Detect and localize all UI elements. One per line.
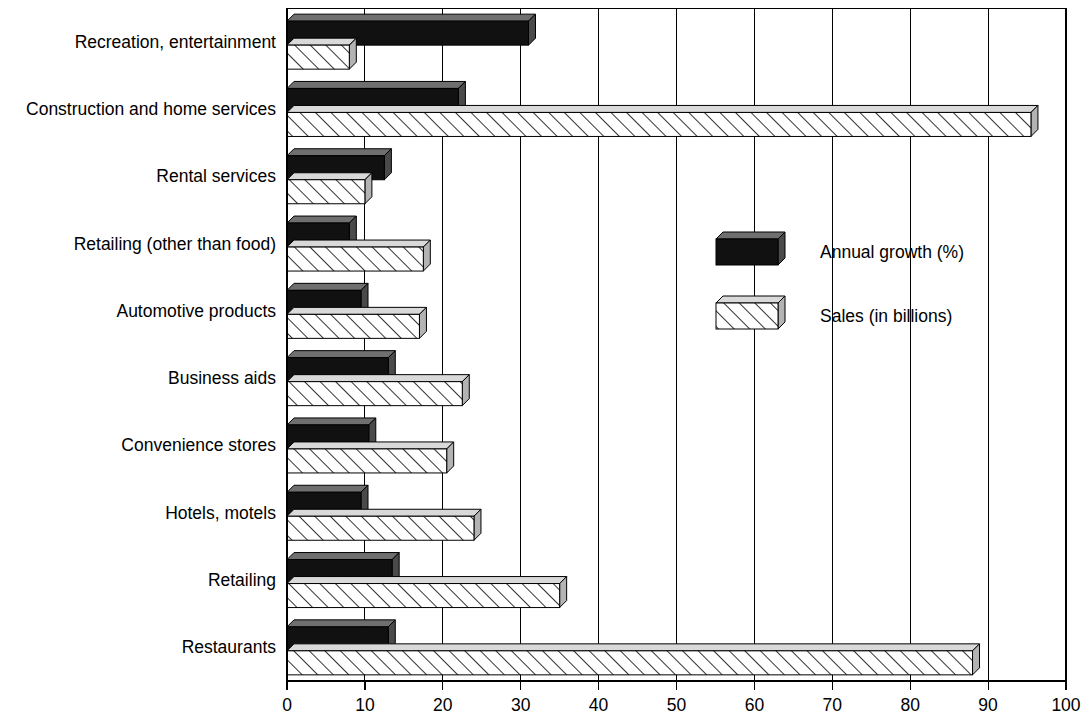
legend-label-1: Sales (in billions) [820,306,952,326]
bar-sales-0 [287,38,356,69]
bar-annual-growth-6-top [287,418,376,425]
bar-sales-9 [287,644,980,675]
bar-sales-5-top [287,375,469,382]
category-label-6: Convenience stores [121,435,276,455]
bar-annual-growth-1-top [287,81,465,88]
category-label-4: Automotive products [116,301,276,321]
legend-item-0: Annual growth (%) [716,232,964,265]
bar-sales-4 [287,307,426,338]
bar-group-row-1 [287,81,1038,136]
bar-annual-growth-8-top [287,553,399,560]
bar-sales-6 [287,442,454,473]
chart-canvas: 0102030405060708090100 Recreation, enter… [0,0,1088,727]
bar-sales-1-face [287,112,1031,136]
bar-group-row-8 [287,553,567,608]
bar-group-row-7 [287,485,481,540]
x-tick-label-80: 80 [900,695,920,715]
bar-sales-6-face [287,449,447,473]
category-label-3: Retailing (other than food) [74,234,276,254]
bar-annual-growth-7-top [287,485,368,492]
bar-annual-growth-9-top [287,620,395,627]
legend-label-0: Annual growth (%) [820,242,964,262]
bar-sales-2 [287,173,372,204]
x-tick-label-30: 30 [511,695,531,715]
x-tick-label-100: 100 [1051,695,1080,715]
category-label-9: Restaurants [182,637,277,657]
y-axis-category-labels: Recreation, entertainmentConstruction an… [26,32,276,658]
bar-sales-3-face [287,247,423,271]
bar-sales-5-face [287,382,462,406]
bar-group-row-0 [287,14,535,69]
bar-group-row-6 [287,418,454,473]
x-tick-label-60: 60 [745,695,765,715]
bar-sales-1-top [287,105,1038,112]
bar-sales-4-top [287,307,426,314]
x-tick-label-70: 70 [823,695,843,715]
legend-swatch-0-face [716,239,778,265]
x-tick-label-90: 90 [978,695,998,715]
bar-group-row-2 [287,149,391,204]
legend-item-1: Sales (in billions) [716,296,952,329]
bar-sales-8-face [287,584,560,608]
bar-group-row-4 [287,283,426,338]
bar-sales-8 [287,577,567,608]
bar-sales-3 [287,240,430,271]
bar-sales-7 [287,509,481,540]
bar-sales-0-face [287,45,349,69]
bar-sales-9-face [287,651,973,675]
x-axis-tick-labels: 0102030405060708090100 [282,695,1081,715]
bar-sales-3-top [287,240,430,247]
x-tick-label-10: 10 [355,695,375,715]
bar-sales-7-top [287,509,481,516]
bar-sales-6-top [287,442,454,449]
legend-swatch-1-top [716,296,785,303]
bar-group-row-9 [287,620,980,675]
bar-annual-growth-3-top [287,216,356,223]
legend-swatch-0-top [716,232,785,239]
legend-swatch-1-face [716,303,778,329]
bar-sales-2-top [287,173,372,180]
bar-group-row-5 [287,351,469,406]
x-tick-label-20: 20 [433,695,453,715]
category-label-0: Recreation, entertainment [75,32,276,52]
chart-legend: Annual growth (%)Sales (in billions) [716,232,964,329]
category-label-8: Retailing [208,570,276,590]
bar-sales-8-top [287,577,567,584]
bar-annual-growth-5-top [287,351,395,358]
category-label-5: Business aids [168,368,276,388]
bar-sales-9-top [287,644,980,651]
x-tick-label-40: 40 [589,695,609,715]
bar-sales-4-face [287,314,419,338]
category-label-2: Rental services [156,166,276,186]
category-label-7: Hotels, motels [165,503,276,523]
category-label-1: Construction and home services [26,99,276,119]
bar-sales-1 [287,105,1038,136]
bar-chart: 0102030405060708090100 Recreation, enter… [0,0,1088,727]
bar-sales-2-face [287,180,365,204]
bar-sales-0-top [287,38,356,45]
x-tick-label-0: 0 [282,695,292,715]
bar-annual-growth-2-top [287,149,391,156]
bar-group-row-3 [287,216,430,271]
x-tick-label-50: 50 [667,695,687,715]
bar-annual-growth-0-top [287,14,535,21]
bar-sales-7-face [287,516,474,540]
bar-sales-5 [287,375,469,406]
bar-annual-growth-4-top [287,283,368,290]
bars-group [287,14,1038,675]
